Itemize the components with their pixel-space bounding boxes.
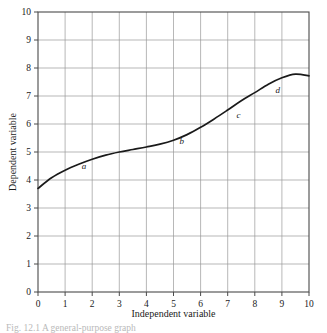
x-tick-label: 0 xyxy=(36,299,41,309)
figure-caption: Fig. 12.1 A general-purpose graph xyxy=(6,323,136,333)
y-tick-label: 9 xyxy=(26,35,31,45)
y-tick-label: 10 xyxy=(22,7,32,17)
figure-container: 012345678910 012345678910 abcd Independe… xyxy=(0,0,327,333)
y-tick-label: 7 xyxy=(26,91,31,101)
x-tick-label: 1 xyxy=(63,299,68,309)
y-tick-label: 1 xyxy=(26,259,31,269)
x-tick-label: 8 xyxy=(252,299,257,309)
y-tick-label: 5 xyxy=(26,147,31,157)
curve-label-d: d xyxy=(276,85,281,95)
y-tick-label: 4 xyxy=(26,175,31,185)
x-tick-label: 9 xyxy=(280,299,285,309)
chart-background xyxy=(0,0,327,333)
y-tick-label: 6 xyxy=(26,119,31,129)
x-tick-label: 10 xyxy=(304,299,314,309)
x-tick-label: 3 xyxy=(117,299,122,309)
y-tick-label: 2 xyxy=(26,231,31,241)
y-axis-title: Dependent variable xyxy=(7,112,18,191)
line-chart: 012345678910 012345678910 abcd Independe… xyxy=(0,0,327,333)
y-tick-label: 0 xyxy=(26,287,31,297)
y-tick-label: 3 xyxy=(26,203,31,213)
x-tick-label: 2 xyxy=(90,299,95,309)
y-tick-label: 8 xyxy=(26,63,31,73)
curve-label-c: c xyxy=(237,110,241,120)
x-tick-label: 7 xyxy=(225,299,230,309)
x-axis-title: Independent variable xyxy=(131,308,216,319)
curve-label-a: a xyxy=(82,161,87,171)
curve-label-b: b xyxy=(179,136,184,146)
